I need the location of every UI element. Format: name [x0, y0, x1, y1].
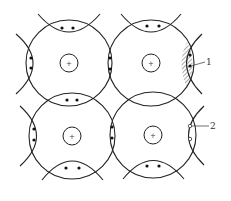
neighbor-arc-top-right — [121, 14, 181, 32]
nucleus-charge-bottom-right: + — [150, 132, 156, 140]
electron — [71, 26, 74, 29]
neighbor-arc-bottom-right — [123, 161, 184, 180]
electron — [188, 53, 191, 56]
callout-label-2: 2 — [210, 121, 216, 131]
electron — [32, 138, 35, 141]
hole — [188, 137, 191, 140]
electron — [157, 164, 160, 167]
electron — [110, 125, 113, 128]
nucleus-charge-top-left: + — [66, 60, 72, 68]
neighbor-arc-bottom-left — [42, 161, 103, 180]
electron — [110, 136, 113, 139]
hole — [188, 124, 191, 127]
electron — [29, 56, 32, 59]
electron — [145, 24, 148, 27]
callout-line-1 — [191, 62, 205, 66]
electron — [65, 98, 68, 101]
electron — [145, 164, 148, 167]
nucleus-charge-bottom-left: + — [69, 133, 75, 141]
electron — [75, 98, 78, 101]
callout-label-1: 1 — [206, 57, 212, 67]
electron — [157, 24, 160, 27]
electron — [77, 166, 80, 169]
electron — [60, 26, 63, 29]
neighbor-arc-top-left — [38, 14, 100, 32]
electron — [108, 56, 111, 59]
electron — [108, 67, 111, 70]
nucleus-charge-top-right: + — [148, 60, 154, 68]
electron — [29, 66, 32, 69]
electron — [64, 166, 67, 169]
electron — [32, 127, 35, 130]
covalent-bond-diagram: + + + + — [0, 0, 231, 201]
